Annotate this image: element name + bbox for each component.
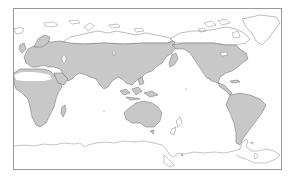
falklands-outline xyxy=(250,142,253,144)
australia-range xyxy=(124,101,162,127)
caspian-sea xyxy=(62,55,66,63)
lake-baikal xyxy=(113,50,115,56)
iceland-outline xyxy=(14,27,24,34)
new-siberian-outline xyxy=(134,28,144,32)
central-america-range xyxy=(218,83,232,95)
caribbean-range xyxy=(230,80,240,83)
indian-ocean-island xyxy=(104,111,105,112)
world-map xyxy=(14,9,282,170)
novaya-zemlya-outline xyxy=(84,23,94,31)
ross-ice-shelf-outline xyxy=(164,155,174,167)
britain-range xyxy=(19,43,26,53)
south-america-range xyxy=(226,93,266,145)
severnaya-zemlya-outline xyxy=(109,24,120,28)
pacific-island xyxy=(185,88,186,89)
pacific-island xyxy=(181,154,183,156)
new-zealand-outline xyxy=(170,117,182,135)
franz-josef-outline xyxy=(69,20,80,24)
map-frame: Distribution range map xyxy=(13,8,282,170)
madagascar-range xyxy=(61,105,66,117)
svalbard-outline xyxy=(44,22,58,27)
antarctic-island-outline xyxy=(254,153,258,159)
arctic-canada-outline xyxy=(170,27,250,45)
japan-range xyxy=(169,53,178,67)
siberia-tundra xyxy=(62,31,174,44)
north-america-range xyxy=(172,43,248,83)
arctic-outlines xyxy=(14,20,144,34)
tasmania-range xyxy=(150,130,154,134)
